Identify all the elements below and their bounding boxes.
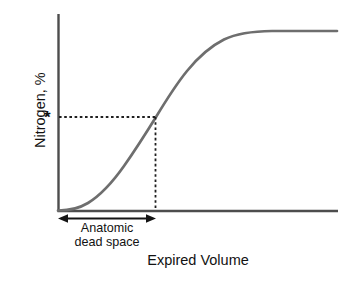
- single-breath-nitrogen-washout-chart: [0, 0, 351, 281]
- anatomic-dead-space-label-line2: dead space: [58, 235, 156, 249]
- nitrogen-level-star-marker: *: [44, 108, 51, 127]
- anatomic-dead-space-label-line1: Anatomic: [81, 221, 134, 235]
- anatomic-dead-space-label: Anatomicdead space: [58, 221, 156, 249]
- chart-background: [0, 0, 351, 281]
- x-axis-title: Expired Volume: [58, 252, 338, 268]
